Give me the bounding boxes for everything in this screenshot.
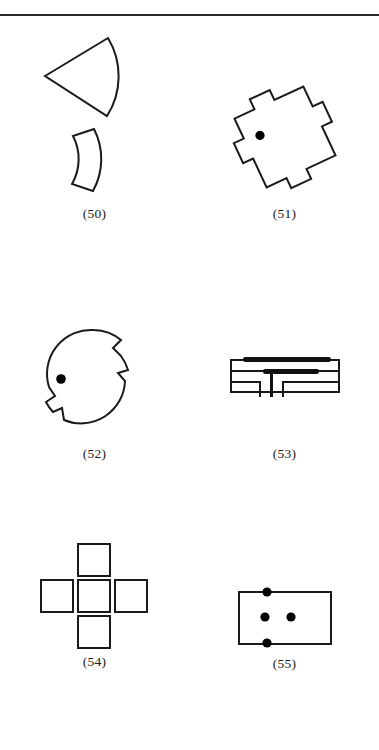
figure-52: (52) (0, 322, 189, 462)
figure-52-caption: (52) (0, 446, 189, 462)
figure-53-art (190, 322, 379, 442)
figure-55: (55) (190, 582, 379, 672)
outer-rectangle (231, 360, 339, 392)
figure-52-drawing (35, 322, 155, 442)
figure-55-caption: (55) (190, 656, 379, 672)
figure-54-caption: (54) (0, 654, 189, 670)
lower-arm-right (283, 382, 339, 397)
figure-54-art (0, 540, 189, 650)
dot-interior-right (286, 612, 295, 621)
figure-54: (54) (0, 540, 189, 670)
figure-50-svg (35, 32, 155, 202)
lower-arm-left (231, 382, 260, 397)
square-right (115, 580, 147, 612)
notched-square (219, 72, 349, 202)
figure-53-drawing (225, 322, 345, 442)
figure-51-svg (225, 32, 345, 202)
figure-54-svg (35, 540, 155, 650)
square-left (41, 580, 73, 612)
figure-55-svg (225, 582, 345, 652)
figure-50: (50) (0, 32, 189, 222)
figure-51-drawing (225, 32, 345, 202)
figure-51-caption: (51) (190, 206, 379, 222)
figure-53: (53) (190, 322, 379, 462)
dot-top-edge (262, 587, 271, 596)
sector-wedge (45, 38, 119, 116)
rectangle (239, 592, 331, 644)
figure-page: (50) (51) (0, 0, 379, 750)
figure-54-drawing (35, 540, 155, 650)
figure-grid: (50) (51) (0, 22, 379, 750)
figure-53-caption: (53) (190, 446, 379, 462)
figure-50-art (0, 32, 189, 202)
square-bottom (78, 616, 110, 648)
upper-thick-bar (243, 357, 331, 362)
dot-interior-left (260, 612, 269, 621)
center-dot (56, 374, 66, 384)
figure-50-drawing (35, 32, 155, 202)
figure-52-svg (35, 322, 155, 442)
square-top (78, 544, 110, 576)
page-top-rule (0, 14, 379, 16)
figure-51-art (190, 32, 379, 202)
square-center (78, 580, 110, 612)
figure-50-caption: (50) (0, 206, 189, 222)
center-dot (253, 129, 265, 141)
figure-55-drawing (225, 582, 345, 652)
arc-band (72, 129, 101, 191)
figure-55-art (190, 582, 379, 652)
figure-53-svg (225, 322, 345, 442)
figure-52-art (0, 322, 189, 442)
feed-stub (270, 371, 273, 397)
dot-bottom-edge (262, 638, 271, 647)
figure-51: (51) (190, 32, 379, 222)
